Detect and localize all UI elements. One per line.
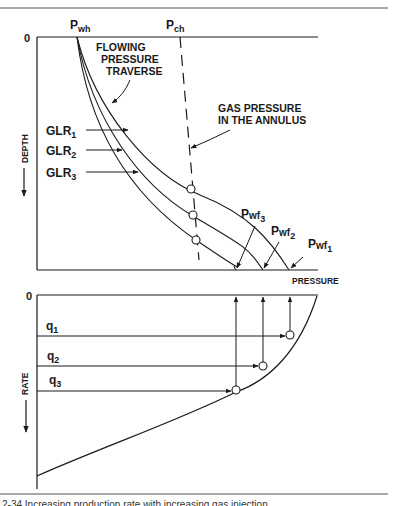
injection-point-2 [189, 211, 197, 219]
pch-label: Pch [166, 18, 185, 34]
traverse-label: FLOWING PRESSURE TRAVERSE [96, 41, 162, 77]
pwh-label: Pwh [70, 18, 91, 34]
pwf2-label: Pwf2 [271, 224, 295, 241]
q2-label: q2 [47, 349, 59, 365]
annulus-label: GAS PRESSURE IN THE ANNULUS [218, 102, 306, 126]
glr2-label: GLR2 [46, 144, 76, 160]
q1-label: q1 [46, 319, 58, 335]
pwf3-arrow [237, 226, 255, 268]
pwf1-arrow [291, 257, 303, 268]
gas-lift-diagram: 0 Pwh Pch FLOWING PRESSURE TRAVERSE GAS … [0, 0, 396, 506]
pwf3-label: Pwf3 [241, 207, 265, 224]
rate-point-3 [232, 386, 240, 394]
injection-point-3 [192, 236, 200, 244]
annulus-pressure-line [180, 37, 199, 260]
top-origin-label: 0 [24, 32, 30, 44]
rate-point-2 [259, 362, 267, 370]
bottom-origin-label: 0 [26, 290, 32, 302]
depth-axis-label: DEPTH [20, 134, 30, 163]
traverse-arrow [112, 80, 130, 103]
rate-axis-label: RATE [20, 372, 30, 395]
pwf1-label: Pwf1 [308, 237, 332, 254]
curve-glr2 [77, 37, 263, 270]
injection-point-1 [187, 185, 195, 193]
glr1-label: GLR1 [46, 124, 76, 140]
rate-pressure-chart: 0 q1 q2 q3 RATE [20, 290, 318, 489]
depth-pressure-chart: 0 Pwh Pch FLOWING PRESSURE TRAVERSE GAS … [20, 18, 339, 286]
ipr-curve [37, 296, 317, 476]
pressure-axis-label: PRESSURE [292, 276, 339, 286]
q3-label: q3 [49, 373, 61, 389]
annulus-arrow [191, 130, 230, 148]
figure-caption: 2-34 Increasing production rate with inc… [2, 499, 392, 506]
glr3-label: GLR3 [46, 166, 76, 182]
rate-point-1 [286, 331, 294, 339]
